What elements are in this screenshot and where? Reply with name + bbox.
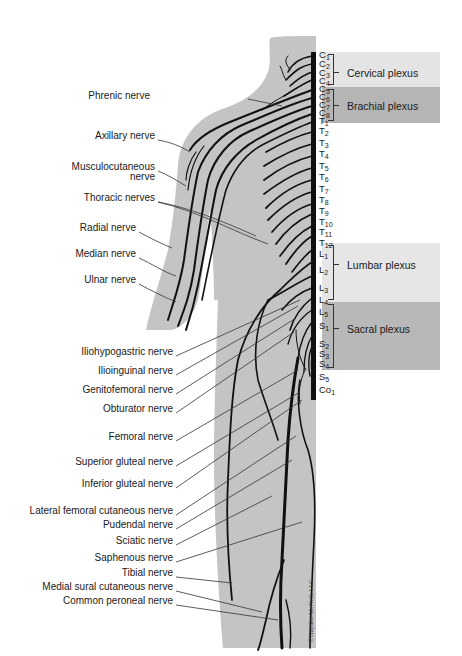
nerve-label-inferior-gluteal-nerve: Inferior gluteal nerve bbox=[82, 478, 173, 489]
plexus-label: Cervical plexus bbox=[347, 67, 418, 79]
nerve-label-sciatic-nerve: Sciatic nerve bbox=[116, 535, 173, 546]
nerve-label-lateral-femoral-cutaneous-nerve: Lateral femoral cutaneous nerve bbox=[30, 505, 173, 516]
spinal-segment-co1: Co1 bbox=[319, 385, 335, 398]
nerve-label-femoral-nerve: Femoral nerve bbox=[109, 431, 173, 442]
plexus-bracket bbox=[328, 245, 334, 300]
nerve-label-thoracic-nerves: Thoracic nerves bbox=[84, 192, 155, 203]
nerve-label-phrenic-nerve: Phrenic nerve bbox=[88, 90, 150, 101]
nerve-label-genitofemoral-nerve: Genitofemoral nerve bbox=[82, 384, 173, 395]
nerve-label-median-nerve: Median nerve bbox=[75, 248, 136, 259]
nerve-label-obturator-nerve: Obturator nerve bbox=[103, 403, 173, 414]
nerve-label-superior-gluteal-nerve: Superior gluteal nerve bbox=[75, 456, 173, 467]
copyright-credit: ©Hayden-McNeil, LLC bbox=[307, 579, 314, 642]
nerve-label-iliohypogastric-nerve: Iliohypogastric nerve bbox=[81, 346, 173, 357]
plexus-band-cervical-plexus: Cervical plexus bbox=[322, 52, 440, 87]
nerve-label-musculocutaneous-nerve: nerve bbox=[130, 171, 155, 182]
nerve-label-common-peroneal-nerve: Common peroneal nerve bbox=[63, 595, 173, 606]
nerve-label-saphenous-nerve: Saphenous nerve bbox=[95, 552, 173, 563]
plexus-label: Sacral plexus bbox=[347, 323, 410, 335]
spinal-segment-l2: L2 bbox=[319, 265, 328, 278]
spinal-segment-l1: L1 bbox=[319, 249, 328, 262]
nerve-label-medial-sural-cutaneous-nerve: Medial sural cutaneous nerve bbox=[42, 581, 173, 592]
nerve-label-ilioinguinal-nerve: Ilioinguinal nerve bbox=[98, 365, 173, 376]
nerve-label-radial-nerve: Radial nerve bbox=[80, 222, 136, 233]
plexus-band-sacral-plexus: Sacral plexus bbox=[322, 302, 440, 370]
spinal-segment-s1: S1 bbox=[319, 321, 329, 334]
nerve-label-pudendal-nerve: Pudendal nerve bbox=[103, 519, 173, 530]
plexus-label: Lumbar plexus bbox=[347, 259, 416, 271]
plexus-band-brachial-plexus: Brachial plexus bbox=[322, 87, 440, 123]
nerve-label-tibial-nerve: Tibial nerve bbox=[122, 567, 173, 578]
spinal-segment-l5: L5 bbox=[319, 307, 328, 320]
nerve-label-axillary-nerve: Axillary nerve bbox=[95, 130, 155, 141]
plexus-band-lumbar-plexus: Lumbar plexus bbox=[322, 243, 440, 302]
nerve-label-ulnar-nerve: Ulnar nerve bbox=[84, 274, 136, 285]
plexus-label: Brachial plexus bbox=[347, 100, 418, 112]
